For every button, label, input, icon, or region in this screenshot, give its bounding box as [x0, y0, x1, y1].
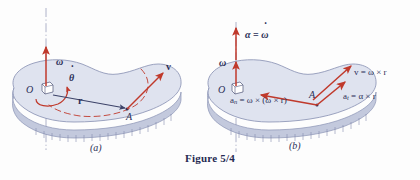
- panel-b-graphics: [205, 0, 420, 165]
- origin-label-a: O: [26, 85, 33, 95]
- r-label-a: r: [78, 96, 82, 106]
- omega-label-b: ω: [219, 58, 226, 68]
- omega-label-a: ω: [56, 57, 63, 67]
- hub-block-a: [42, 82, 53, 94]
- body-top-face-a: [13, 60, 181, 122]
- alpha-equals-omega-dot-label: α = ω: [245, 30, 268, 40]
- figure-caption: Figure 5/4: [0, 152, 420, 164]
- panel-a-graphics: [0, 0, 210, 165]
- panel-a: ω θ O r A v (a): [0, 0, 210, 165]
- point-a-label-b: A: [309, 90, 315, 100]
- hub-block-b: [232, 82, 243, 94]
- origin-label-b: O: [218, 85, 225, 95]
- a-n-expression-label: an = ω × (ω × r): [230, 96, 287, 106]
- point-a-label-a: A: [126, 112, 132, 122]
- theta-dot-label-a: θ: [69, 73, 74, 83]
- a-t-expression-label: at = α × r: [343, 92, 376, 102]
- panel-b: α = ω ω O A an = ω × (ω × r) at = α × r …: [205, 0, 420, 165]
- v-expression-label: v = ω × r: [354, 68, 387, 77]
- v-label-a: v: [166, 62, 171, 72]
- figure-container: ω θ O r A v (a): [0, 0, 420, 180]
- sublabel-b: (b): [289, 140, 301, 151]
